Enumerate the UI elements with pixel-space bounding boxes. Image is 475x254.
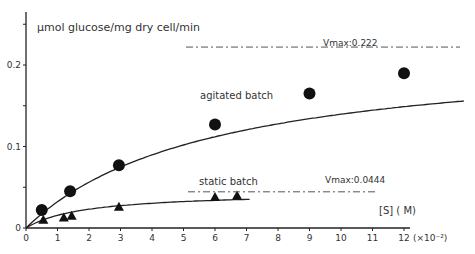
y-axis-label: µmol glucose/mg dry cell/min (37, 21, 200, 34)
vmax-agitated-label: Vmax:0.222 (323, 38, 378, 48)
chart: 012345678910111200.10.2 µmol glucose/mg … (0, 0, 475, 254)
x-tick-label: 6 (212, 233, 218, 243)
data-point-circle (209, 118, 221, 130)
x-tick-label: 12 (398, 233, 409, 243)
x-tick-label: 10 (335, 233, 347, 243)
data-point-triangle (59, 212, 69, 221)
agitated-batch-label: agitated batch (200, 90, 273, 101)
data-point-circle (398, 67, 410, 79)
x-tick-label: 4 (149, 233, 155, 243)
curve-static-batch (26, 199, 250, 228)
x-tick-label: 8 (275, 233, 281, 243)
data-point-triangle (67, 211, 77, 220)
x-multiplier-label: (×10⁻²) (413, 233, 447, 243)
x-tick-label: 2 (86, 233, 92, 243)
x-tick-label: 11 (367, 233, 378, 243)
vmax-static-label: Vmax:0.0444 (325, 175, 386, 185)
y-tick-label: 0.2 (7, 60, 21, 70)
data-point-circle (64, 185, 76, 197)
y-tick-label: 0 (15, 223, 21, 233)
x-tick-label: 9 (307, 233, 313, 243)
data-point-circle (36, 204, 48, 216)
vmax-lines (186, 47, 460, 192)
x-tick-label: 3 (118, 233, 124, 243)
static-batch-label: static batch (199, 176, 258, 187)
x-axis-label: [S] ( M) (379, 205, 416, 216)
data-point-circle (113, 159, 125, 171)
data-point-triangle (210, 192, 220, 201)
x-tick-label: 7 (244, 233, 250, 243)
x-tick-label: 0 (23, 233, 29, 243)
x-tick-label: 1 (55, 233, 61, 243)
data-point-circle (304, 88, 316, 100)
y-tick-label: 0.1 (7, 142, 21, 152)
x-tick-label: 5 (181, 233, 187, 243)
